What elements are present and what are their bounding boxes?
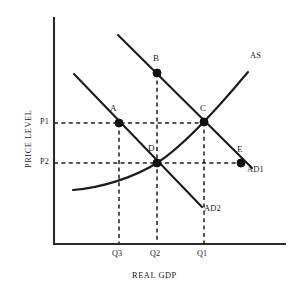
y-axis-title: PRICE LEVEL bbox=[24, 110, 33, 168]
x-axis-title: REAL GDP bbox=[132, 271, 177, 280]
point-label-a: A bbox=[110, 104, 117, 113]
ad-as-diagram: A B C D E AS AD1 AD2 P1 P2 Q3 Q2 Q1 PRIC… bbox=[0, 0, 298, 295]
point-label-d: D bbox=[148, 144, 155, 153]
ad1-curve bbox=[118, 35, 252, 168]
x-tick-label-q3: Q3 bbox=[112, 250, 122, 258]
point-c-dot bbox=[200, 118, 208, 126]
as-curve bbox=[73, 72, 248, 190]
point-label-e: E bbox=[237, 145, 243, 154]
curve-label-as: AS bbox=[250, 52, 261, 60]
x-tick-label-q2: Q2 bbox=[150, 250, 160, 258]
y-tick-label-p2: P2 bbox=[40, 158, 49, 166]
point-b-dot bbox=[153, 69, 161, 77]
curve-label-ad2: AD2 bbox=[204, 205, 221, 213]
point-d-dot bbox=[153, 159, 161, 167]
point-label-c: C bbox=[200, 104, 206, 113]
point-e-dot bbox=[237, 159, 245, 167]
point-a-dot bbox=[115, 119, 123, 127]
y-tick-label-p1: P1 bbox=[40, 118, 49, 126]
x-tick-label-q1: Q1 bbox=[197, 250, 207, 258]
curve-label-ad1: AD1 bbox=[247, 166, 264, 174]
point-label-b: B bbox=[153, 54, 159, 63]
